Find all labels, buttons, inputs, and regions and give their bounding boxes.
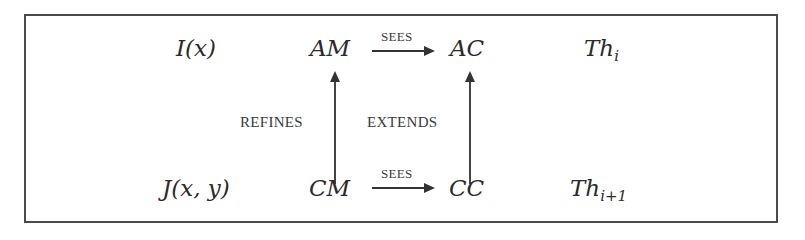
node-concrete-machine: CM (309, 177, 350, 200)
theory-bottom-subscript: i+1 (600, 187, 627, 205)
theory-bottom-base: Th (570, 175, 600, 201)
theory-top: Thi (584, 37, 619, 64)
theory-bottom: Thi+1 (570, 177, 627, 204)
sees-label-bottom: SEES (381, 167, 413, 180)
extends-label: EXTENDS (367, 115, 437, 130)
node-abstract-machine: AM (310, 37, 350, 60)
node-concrete-context: CC (449, 177, 484, 200)
theory-top-subscript: i (614, 47, 619, 65)
invariant-top: I(x) (176, 37, 216, 60)
refines-label: REFINES (240, 115, 303, 130)
extends-arrow (469, 74, 471, 184)
node-abstract-context: AC (450, 37, 484, 60)
sees-arrow-top (372, 50, 433, 52)
sees-arrow-bottom (372, 187, 433, 189)
theory-top-base: Th (584, 35, 614, 61)
sees-label-top: SEES (381, 30, 413, 43)
invariant-bottom: J(x, y) (162, 177, 230, 200)
refines-arrow (334, 74, 336, 184)
